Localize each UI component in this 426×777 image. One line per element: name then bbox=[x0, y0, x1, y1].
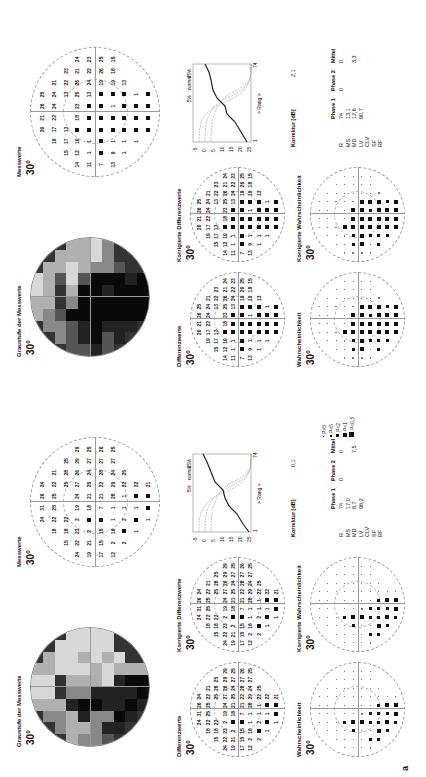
probability-square-icon bbox=[344, 583, 345, 584]
probability-symbol bbox=[366, 206, 375, 215]
probability-square-icon bbox=[386, 305, 389, 308]
probability-symbol bbox=[358, 579, 367, 588]
probability-square-icon bbox=[344, 625, 345, 626]
probability-symbol bbox=[332, 240, 341, 249]
greyscale-cell bbox=[31, 640, 43, 652]
probability-symbol bbox=[392, 232, 401, 241]
probability-symbol bbox=[340, 354, 349, 363]
probability-symbol bbox=[383, 727, 392, 736]
grid-value: 28 bbox=[212, 684, 221, 693]
grid-value: 31 bbox=[37, 502, 49, 514]
probability-symbol bbox=[349, 328, 358, 337]
probability-symbol bbox=[332, 180, 341, 189]
probability-symbol bbox=[340, 206, 349, 215]
probability-square-icon bbox=[353, 705, 354, 706]
probability-symbol bbox=[392, 667, 401, 676]
legend-label: P<0,5 bbox=[349, 417, 355, 430]
grid-value bbox=[203, 240, 212, 249]
probability-symbol bbox=[366, 320, 375, 329]
probability-symbol bbox=[383, 684, 392, 693]
probability-square-icon bbox=[351, 720, 355, 724]
probability-symbol bbox=[366, 622, 375, 631]
curve-label: normal bbox=[187, 76, 192, 90]
legend-item: P>5 bbox=[320, 417, 327, 437]
probability-square-icon bbox=[378, 583, 379, 584]
greyscale-cell bbox=[90, 628, 102, 640]
grid-value bbox=[48, 65, 60, 77]
probability-symbol bbox=[340, 735, 349, 744]
probability-symbol bbox=[315, 232, 324, 241]
probability-symbol bbox=[375, 667, 384, 676]
defect-square-icon bbox=[122, 128, 126, 132]
greyscale-cell bbox=[102, 273, 114, 285]
probability-symbol bbox=[332, 285, 341, 294]
greyscale-cell bbox=[55, 262, 67, 274]
probability-square-icon bbox=[336, 634, 337, 635]
greyscale-cell bbox=[31, 238, 43, 250]
stats-cell: MD bbox=[351, 528, 357, 537]
probability-symbol bbox=[349, 337, 358, 346]
greyscale-cell bbox=[114, 663, 126, 675]
grid-value: 1 bbox=[142, 514, 154, 526]
grid-value bbox=[229, 718, 238, 727]
grid-value bbox=[212, 710, 221, 719]
grid-value: 1 bbox=[246, 311, 255, 320]
grid-value bbox=[60, 502, 72, 514]
grid-value: 2 bbox=[255, 630, 264, 639]
grid-value bbox=[263, 630, 272, 639]
probability-symbol bbox=[323, 345, 332, 354]
probability-symbol bbox=[340, 328, 349, 337]
grid-value: 13 bbox=[60, 124, 72, 136]
probability-square-icon bbox=[377, 721, 380, 724]
greyscale-cell bbox=[102, 663, 114, 675]
bebie-curve: -50510152025> Rang >1745%normal95% bbox=[185, 52, 265, 152]
probability-square-icon bbox=[378, 696, 379, 697]
probability-square-icon bbox=[368, 217, 372, 221]
grid-value: 14 bbox=[220, 354, 229, 363]
grid-value: 18 bbox=[229, 710, 238, 719]
grid-value: 22 bbox=[220, 735, 229, 744]
greyscale-cell bbox=[31, 250, 43, 262]
probability-symbol bbox=[358, 215, 367, 224]
probability-symbol bbox=[340, 692, 349, 701]
grid-value bbox=[195, 630, 204, 639]
grid-value: 27 bbox=[72, 479, 84, 491]
curve-label: 95% bbox=[187, 459, 192, 468]
probability-square-icon bbox=[370, 289, 371, 290]
grid-value: 15 bbox=[246, 277, 255, 286]
grid-value: 21 bbox=[220, 285, 229, 294]
probability-symbol bbox=[366, 570, 375, 579]
y-tick-label: 0 bbox=[201, 539, 207, 542]
probability-symbol bbox=[323, 727, 332, 736]
greyscale-cell bbox=[90, 652, 102, 664]
probability-square-icon bbox=[377, 330, 381, 334]
defect-square-icon bbox=[240, 313, 244, 317]
probability-square-icon bbox=[353, 747, 354, 748]
probability-square-icon bbox=[353, 193, 354, 194]
greyscale-cell bbox=[114, 344, 126, 356]
grid-value: 25 bbox=[246, 667, 255, 676]
difference-values-panel: Differenzwerte30°24312624182225252221151… bbox=[190, 662, 285, 757]
y-tick-label: 0 bbox=[201, 149, 207, 152]
grid-value bbox=[272, 605, 281, 614]
bebie-curve: -50510152025> Rang >1745%normal95% bbox=[185, 442, 265, 542]
probability-symbol bbox=[358, 294, 367, 303]
greyscale-cell bbox=[114, 309, 126, 321]
legend-item: P<0,5 bbox=[348, 417, 355, 437]
greyscale-cell bbox=[125, 711, 137, 723]
probability-symbol bbox=[383, 197, 392, 206]
defect-square-icon bbox=[274, 305, 278, 309]
probability-symbol bbox=[332, 337, 341, 346]
greyscale-cell bbox=[78, 734, 90, 746]
correction-label: Korrektur [dB] bbox=[290, 109, 296, 147]
greyscale-cell bbox=[114, 262, 126, 274]
grid-value bbox=[142, 490, 154, 502]
grid-value bbox=[263, 240, 272, 249]
probability-square-icon bbox=[394, 217, 398, 221]
grid-value: 25 bbox=[37, 89, 49, 101]
probability-square-icon bbox=[336, 730, 337, 731]
stats-cell: 13,1 bbox=[345, 108, 351, 119]
defect-square-icon bbox=[257, 200, 261, 204]
probability-symbol bbox=[375, 701, 384, 710]
probability-square-icon bbox=[360, 322, 364, 326]
